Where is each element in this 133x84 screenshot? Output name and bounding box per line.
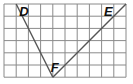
vertex-label-e: E bbox=[104, 4, 113, 19]
triangle-grid-diagram: D E F bbox=[0, 0, 133, 84]
vertex-label-f: F bbox=[51, 60, 60, 75]
vertex-label-d: D bbox=[19, 4, 29, 19]
